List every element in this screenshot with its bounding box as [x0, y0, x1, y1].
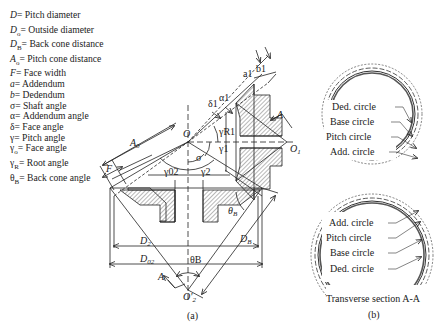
label-a1: a1	[243, 68, 252, 79]
bevel-gear-diagram: O O1 O'2 A0 F a1 b1 α1 δ1 γR1 γ1 σ γ02 γ…	[0, 0, 446, 330]
label-thetaB-small: θB	[228, 205, 238, 218]
label-O: O	[183, 128, 190, 139]
caption-b: (b)	[368, 309, 380, 321]
label-gammaR1: γR1	[218, 126, 235, 137]
label-A-top: A	[276, 109, 284, 120]
label-alpha1: α1	[219, 92, 229, 103]
label-thetaB: θB	[190, 254, 202, 265]
label-gamma1: γ1	[218, 143, 228, 154]
label-F: F	[105, 163, 113, 174]
caption-a: (a)	[187, 310, 198, 322]
theta-b-arc	[177, 273, 199, 276]
label-gamma2: γ2	[200, 166, 210, 177]
label-A-bottom: A	[157, 271, 165, 282]
label-gamma02: γ02	[163, 166, 178, 177]
label-DB: DB	[239, 233, 252, 246]
label-sigma: σ	[196, 152, 202, 163]
gamma-r1-arc	[214, 126, 218, 142]
upper-label-base-circle: Base circle	[330, 116, 375, 127]
label-O1: O1	[290, 143, 301, 156]
label-b1: b1	[256, 63, 266, 74]
lower-label-pitch-circle: Pitch circle	[326, 232, 372, 243]
lower-label-add-circle: Add. circle	[329, 217, 374, 228]
upper-label-add-circle: Add. circle	[330, 146, 375, 157]
label-delta1: δ1	[208, 98, 218, 109]
upper-label-pitch-circle: Pitch circle	[326, 131, 372, 142]
upper-label-ded-circle: Ded. circle	[332, 101, 376, 112]
lower-label-base-circle: Base circle	[330, 247, 375, 258]
section-title: Transverse section A-A	[326, 293, 421, 304]
pitch-cone-left	[110, 142, 188, 188]
lower-label-ded-circle: Ded. circle	[330, 263, 374, 274]
